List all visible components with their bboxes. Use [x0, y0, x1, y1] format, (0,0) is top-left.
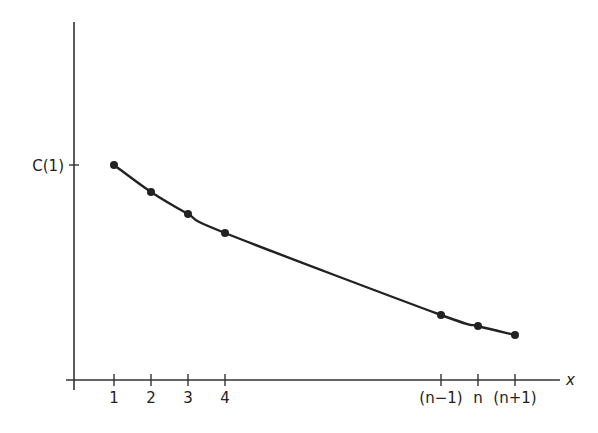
curve-line	[114, 165, 515, 335]
x-tick-label: 3	[183, 389, 193, 407]
x-tick-label: (n+1)	[493, 389, 536, 407]
data-point	[511, 331, 519, 339]
data-point	[221, 229, 229, 237]
data-point	[184, 210, 192, 218]
x-tick-label: 1	[109, 389, 119, 407]
data-point	[474, 322, 482, 330]
data-points	[110, 161, 519, 339]
x-tick-label: n	[473, 389, 483, 407]
data-point	[147, 188, 155, 196]
x-tick-label: 2	[146, 389, 156, 407]
data-point	[110, 161, 118, 169]
x-tick-label: 4	[220, 389, 230, 407]
chart: C(1) 1 2 3 4 (n−1) n (n+1) x	[0, 0, 598, 433]
y-tick-label-c1: C(1)	[32, 157, 64, 175]
data-point	[437, 311, 445, 319]
x-tick-label: (n−1)	[419, 389, 462, 407]
x-axis-label: x	[565, 371, 575, 389]
